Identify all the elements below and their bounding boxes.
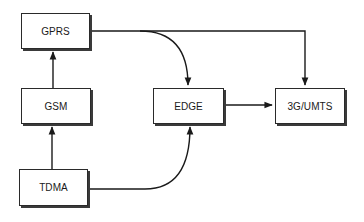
edge-gprs-edge [140,31,188,85]
node-gsm: GSM [21,88,91,124]
node-gprs: GPRS [21,13,90,49]
node-umts-label: 3G/UMTS [287,101,332,112]
node-tdma: TDMA [19,169,88,206]
edge-tdma-edge [89,127,190,189]
node-edge-label: EDGE [174,101,203,112]
edge-gprs-umts [91,31,305,85]
node-gsm-label: GSM [44,101,67,112]
node-gprs-label: GPRS [41,26,70,37]
node-umts: 3G/UMTS [275,88,345,124]
node-tdma-label: TDMA [39,182,68,193]
node-edge: EDGE [153,88,224,124]
